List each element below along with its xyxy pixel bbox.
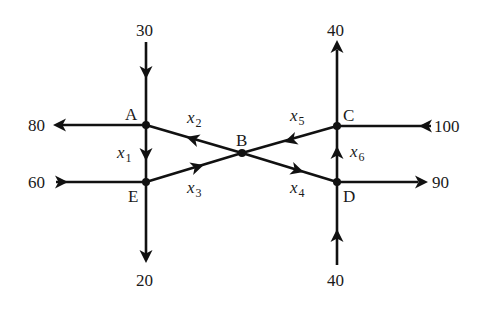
edge-out-top-right [331, 40, 344, 126]
node-label-c: C [343, 106, 354, 125]
flow-value-top-right: 40 [327, 21, 344, 40]
var-label-x5: x5 [289, 106, 305, 128]
arrow-icon [184, 131, 200, 147]
node-label-b: B [236, 131, 247, 150]
flow-value-right-top: 100 [434, 117, 460, 136]
node-label-a: A [125, 105, 138, 124]
node-a [142, 121, 150, 129]
node-b [238, 149, 246, 157]
flow-value-left-bottom: 60 [28, 173, 45, 192]
node-c [333, 122, 341, 130]
flow-value-top-left: 30 [136, 21, 153, 40]
node-label-e: E [128, 187, 138, 206]
flow-value-bottom-left: 20 [136, 271, 153, 290]
edge-in-bottom-right [331, 182, 344, 265]
traffic-flow-diagram: A B C D E 30 80 60 20 40 100 90 40 x1 x2… [0, 0, 481, 311]
edge-x5 [242, 126, 337, 153]
edge-x6 [331, 126, 344, 182]
flow-value-bottom-right: 40 [327, 271, 344, 290]
var-label-x6: x6 [349, 142, 365, 164]
var-label-x4: x4 [289, 178, 305, 200]
edge-in-top-left [140, 42, 153, 125]
flow-value-left-top: 80 [28, 116, 45, 135]
var-label-x3: x3 [186, 178, 202, 200]
node-label-d: D [343, 187, 355, 206]
arrow-icon [289, 162, 305, 178]
var-label-x2: x2 [186, 108, 202, 130]
node-d [333, 178, 341, 186]
edge-x2 [146, 125, 242, 153]
node-e [142, 178, 150, 186]
edge-x1 [140, 125, 153, 182]
edge-out-bottom-left [140, 182, 153, 263]
flow-value-right-bottom: 90 [432, 173, 449, 192]
var-label-x1: x1 [116, 143, 132, 165]
